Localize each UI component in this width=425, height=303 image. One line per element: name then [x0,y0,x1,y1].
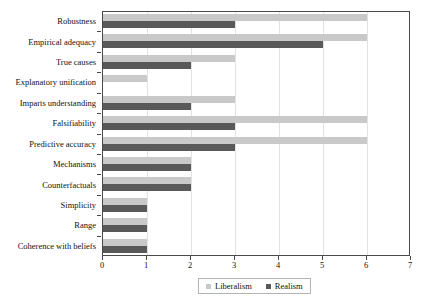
chart-legend: LiberalismRealism [198,278,311,294]
bar-realism [103,103,191,110]
plot-area [102,11,410,256]
bar-realism [103,123,235,130]
bar-realism [103,164,191,171]
bar-group [103,196,409,216]
bar-liberalism [103,177,191,184]
y-axis-label: Falsifiability [0,118,96,128]
y-axis-label: Mechanisms [0,159,96,169]
bar-group [103,53,409,73]
bar-group [103,155,409,175]
y-axis-label: Imparts understanding [0,98,96,108]
bar-liberalism [103,55,235,62]
y-axis-tick [97,215,101,216]
bar-group [103,237,409,257]
bar-group [103,12,409,32]
bar-group [103,32,409,52]
y-axis-label: Coherence with beliefs [0,241,96,251]
bar-liberalism [103,96,235,103]
x-axis-tick-label: 5 [312,260,332,271]
bar-group [103,216,409,236]
legend-entry-realism[interactable]: Realism [266,281,303,291]
x-axis-tick-label: 6 [356,260,376,271]
y-axis-tick [97,195,101,196]
y-axis-label: True causes [0,57,96,67]
y-axis-tick [97,134,101,135]
y-axis-tick [97,154,101,155]
y-axis-label: Empirical adequacy [0,37,96,47]
bar-group [103,73,409,93]
bar-realism [103,62,191,69]
y-axis-label: Counterfactuals [0,180,96,190]
bar-liberalism [103,137,367,144]
bar-realism [103,144,235,151]
y-axis-tick [97,72,101,73]
bar-liberalism [103,14,367,21]
bar-liberalism [103,239,147,246]
y-axis-tick [97,174,101,175]
y-axis-label: Predictive accuracy [0,139,96,149]
x-axis-tick-label: 3 [224,260,244,271]
y-axis-label: Robustness [0,16,96,26]
bar-liberalism [103,75,147,82]
bar-liberalism [103,116,367,123]
x-axis-tick-label: 7 [400,260,420,271]
y-axis-tick [97,93,101,94]
bar-realism [103,205,147,212]
bar-realism [103,41,323,48]
y-axis-tick [97,52,101,53]
x-axis-tick-label: 4 [268,260,288,271]
y-axis-tick [97,236,101,237]
legend-swatch-icon [206,284,211,289]
bar-liberalism [103,218,147,225]
legend-label: Realism [275,281,303,291]
bar-liberalism [103,34,367,41]
bar-group [103,114,409,134]
bar-realism [103,184,191,191]
y-axis-label: Simplicity [0,200,96,210]
y-axis-tick [97,31,101,32]
bar-liberalism [103,157,191,164]
y-axis-label: Explanatory unification [0,77,96,87]
bar-realism [103,225,147,232]
bar-group [103,94,409,114]
bar-group [103,175,409,195]
bar-chart: RobustnessEmpirical adequacyTrue causesE… [0,0,425,303]
y-axis-tick [97,113,101,114]
legend-label: Liberalism [215,281,252,291]
bar-rows [103,12,409,255]
bar-realism [103,246,147,253]
x-axis-tick-label: 1 [136,260,156,271]
y-axis-category-labels: RobustnessEmpirical adequacyTrue causesE… [0,11,96,256]
x-axis-tick-label: 2 [180,260,200,271]
legend-entry-liberalism[interactable]: Liberalism [206,281,252,291]
bar-realism [103,21,235,28]
x-axis-tick-label: 0 [92,260,112,271]
bar-liberalism [103,198,147,205]
bar-group [103,135,409,155]
y-axis-label: Range [0,220,96,230]
legend-swatch-icon [266,284,271,289]
